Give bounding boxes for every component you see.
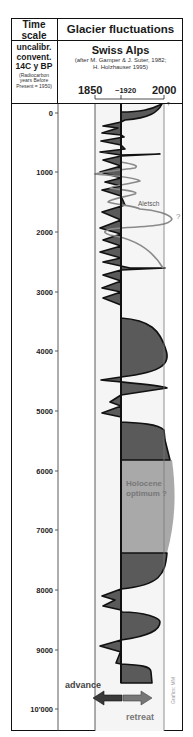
advance-label: advance [65, 680, 101, 690]
y-tick-3000: 3000 [36, 288, 53, 297]
y-tick-8000: 8000 [36, 586, 53, 595]
aletsch-question: ? [176, 212, 180, 221]
y-tick-1000: 1000 [36, 168, 53, 177]
y-tick-10000: 10'000 [30, 705, 53, 714]
holocene-optimum-area [121, 460, 175, 553]
y-tick-7000: 7000 [36, 526, 53, 535]
year-scale-bracket [95, 95, 164, 99]
holocene-optimum-label: Holocene optimum ? [126, 479, 167, 499]
retreat-label: retreat [126, 712, 154, 722]
holocene-line-2: optimum ? [126, 489, 167, 499]
year-2000-question: ? [167, 101, 170, 107]
y-axis-ticks [55, 113, 58, 709]
y-tick-0: 0 [49, 109, 53, 118]
aletsch-label: Aletsch [138, 200, 159, 207]
y-tick-6000: 6000 [36, 467, 53, 476]
chart-plot: 0 1000 2000 3000 4000 5000 6000 7000 800… [0, 0, 193, 737]
holocene-line-1: Holocene [126, 479, 167, 489]
y-tick-5000: 5000 [36, 407, 53, 416]
y-tick-2000: 2000 [36, 228, 53, 237]
credit-label: Grafics: MM [170, 677, 176, 704]
y-tick-9000: 9000 [36, 646, 53, 655]
y-tick-4000: 4000 [36, 347, 53, 356]
